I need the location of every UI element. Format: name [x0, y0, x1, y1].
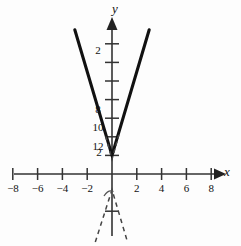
x-tick-label--2: −2	[78, 182, 96, 194]
y-axis-arrow-icon	[107, 17, 118, 30]
graph-figure: y x 12 10 8 2 2 −8 −6 −4 −2 2 4 6 8	[0, 0, 241, 246]
y-tick-label-2: 2	[88, 44, 108, 56]
x-tick-label-8: 8	[202, 182, 220, 194]
x-tick-label-6: 6	[177, 182, 195, 194]
y-axis-label: y	[112, 1, 118, 17]
x-axis-label: x	[224, 164, 230, 180]
x-tick-label--4: −4	[53, 182, 71, 194]
x-tick-label-4: 4	[153, 182, 171, 194]
x-tick-label-2: 2	[128, 182, 146, 194]
x-tick-label--6: −6	[29, 182, 47, 194]
x-tick-label--8: −8	[4, 182, 22, 194]
y-tick-label-10: 10	[88, 121, 108, 133]
y-tick-label-8: 8	[88, 103, 108, 115]
vertex-value-label: 2	[92, 146, 106, 158]
coordinate-plane-svg	[0, 0, 241, 246]
